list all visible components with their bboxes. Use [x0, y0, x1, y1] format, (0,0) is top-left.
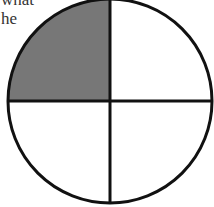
- circle-group: [8, 0, 212, 203]
- fraction-circle-diagram: [0, 0, 214, 207]
- shaded-quadrant-top-left: [8, 0, 110, 101]
